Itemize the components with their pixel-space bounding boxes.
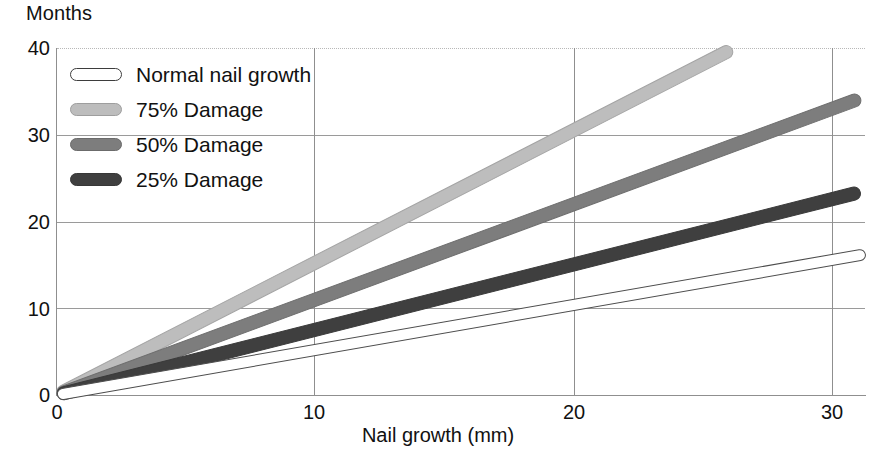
legend-item-50-damage: 50% Damage bbox=[70, 127, 370, 162]
y-axis-title: Months bbox=[26, 2, 92, 24]
legend: Normal nail growth 75% Damage 50% Damage… bbox=[70, 57, 370, 197]
swatch-25-damage-icon bbox=[70, 173, 122, 186]
legend-item-25-damage: 25% Damage bbox=[70, 162, 370, 197]
x-axis-title: Nail growth (mm) bbox=[0, 424, 876, 446]
legend-label-normal-nail-growth: Normal nail growth bbox=[136, 64, 311, 86]
x-tick-label-20: 20 bbox=[544, 402, 604, 422]
gridline-x-20 bbox=[574, 48, 575, 395]
y-tick-label-40: 40 bbox=[6, 38, 50, 58]
y-tick-label-10: 10 bbox=[6, 299, 50, 319]
swatch-normal-nail-growth-icon bbox=[70, 68, 122, 81]
legend-label-75-damage: 75% Damage bbox=[136, 99, 263, 121]
gridline-y-40 bbox=[57, 48, 865, 49]
chart-canvas: Months 40 30 20 10 0 0 10 20 30 Normal n… bbox=[0, 0, 876, 457]
legend-label-50-damage: 50% Damage bbox=[136, 134, 263, 156]
swatch-50-damage-icon bbox=[70, 138, 122, 151]
legend-item-75-damage: 75% Damage bbox=[70, 92, 370, 127]
x-tick-label-30: 30 bbox=[802, 402, 862, 422]
legend-label-25-damage: 25% Damage bbox=[136, 169, 263, 191]
x-tick-label-10: 10 bbox=[284, 402, 344, 422]
gridline-y-10 bbox=[57, 308, 865, 309]
legend-item-normal-nail-growth: Normal nail growth bbox=[70, 57, 370, 92]
swatch-75-damage-icon bbox=[70, 103, 122, 116]
y-tick-label-30: 30 bbox=[6, 125, 50, 145]
x-tick-label-0: 0 bbox=[27, 402, 87, 422]
y-tick-label-20: 20 bbox=[6, 212, 50, 232]
x-axis-line bbox=[56, 395, 866, 396]
